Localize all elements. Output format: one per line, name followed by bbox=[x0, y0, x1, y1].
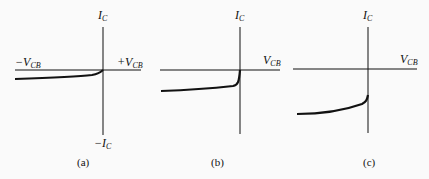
panel-c-ic-label: IC bbox=[363, 9, 372, 25]
panel-a-axes bbox=[15, 27, 141, 135]
panel-b-curve bbox=[161, 70, 240, 91]
panel-b-ic-label: IC bbox=[235, 9, 244, 25]
panel-a-neg-vcb-label: −VCB bbox=[15, 56, 41, 72]
panel-c-caption: (c) bbox=[363, 157, 375, 168]
panel-a-caption: (a) bbox=[77, 157, 89, 168]
panel-b-vcb-label: VCB bbox=[263, 54, 281, 70]
label-sub: C bbox=[239, 14, 244, 23]
label-main: +V bbox=[117, 55, 132, 69]
label-sub: CB bbox=[30, 61, 40, 70]
label-main: −V bbox=[15, 55, 30, 69]
panel-c-curve bbox=[297, 95, 368, 114]
label-sub: C bbox=[102, 14, 107, 23]
label-sub: C bbox=[367, 14, 372, 23]
panel-a-pos-vcb-label: +VCB bbox=[117, 56, 143, 72]
label-sub: CB bbox=[270, 59, 280, 68]
diagram-canvas bbox=[0, 0, 429, 179]
label-sub: CB bbox=[407, 58, 417, 67]
panel-c-vcb-label: VCB bbox=[400, 53, 418, 69]
label-main: −I bbox=[94, 136, 106, 150]
panel-b-axes bbox=[160, 27, 280, 134]
label-sub: CB bbox=[132, 61, 142, 70]
panel-a-ic-label: IC bbox=[98, 9, 107, 25]
label-sub: C bbox=[106, 142, 111, 151]
panel-b-caption: (b) bbox=[211, 157, 224, 168]
panel-a-neg-ic-label: −IC bbox=[94, 137, 111, 153]
panel-c-axes bbox=[293, 27, 417, 133]
